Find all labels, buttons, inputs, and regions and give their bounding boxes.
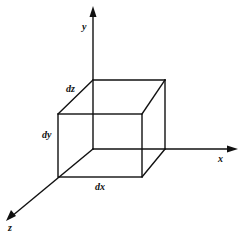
y-axis-arrow-icon xyxy=(90,6,97,17)
volume-element-diagram: y x z dz dy dx xyxy=(0,0,244,233)
z-axis: z xyxy=(6,149,93,233)
dx-label: dx xyxy=(95,181,105,192)
cube-bottom-right-depth-edge xyxy=(142,149,165,177)
y-axis: y xyxy=(81,6,97,149)
dz-label: dz xyxy=(66,83,75,94)
cube xyxy=(58,80,165,177)
cube-top-left-depth-edge xyxy=(58,80,93,114)
x-axis-arrow-icon xyxy=(227,146,238,153)
dy-label: dy xyxy=(42,129,52,140)
x-axis-label: x xyxy=(217,153,223,164)
y-axis-label: y xyxy=(81,21,87,32)
cube-top-right-depth-edge xyxy=(142,80,165,114)
z-axis-arrow-icon xyxy=(6,210,16,221)
z-axis-label: z xyxy=(7,222,12,233)
